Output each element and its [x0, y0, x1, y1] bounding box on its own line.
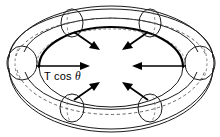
tube-circle-left-hidden-axis — [15, 46, 22, 80]
torus-hole-edge-front — [39, 27, 183, 67]
tube-circle-bottom-right-hidden-axis — [150, 94, 155, 122]
arrow-right — [132, 62, 186, 70]
theta-symbol: θ — [75, 70, 81, 82]
torus-bottom-front-rim — [9, 68, 213, 132]
arrow-lower-right — [122, 82, 148, 100]
arrow-upper-left — [74, 32, 100, 50]
arrow-upper-right — [122, 32, 148, 50]
tension-label-prefix: T cos — [44, 70, 75, 82]
torus-top-outer-edge — [9, 9, 213, 58]
tube-circle-left — [7, 46, 37, 80]
tube-circle-bottom-left — [60, 94, 84, 122]
tube-circle-right — [185, 46, 215, 80]
tube-circle-bottom-left-hidden-axis — [67, 94, 72, 122]
tension-label: T cos θ — [44, 70, 81, 82]
arrow-lower-left — [74, 82, 100, 100]
torus-hidden-inner-ellipse — [37, 29, 185, 63]
arrow-left-tension — [36, 62, 90, 70]
torus-illustration: T cos θ — [0, 0, 220, 137]
torus-force-diagram: T cos θ — [0, 0, 220, 137]
